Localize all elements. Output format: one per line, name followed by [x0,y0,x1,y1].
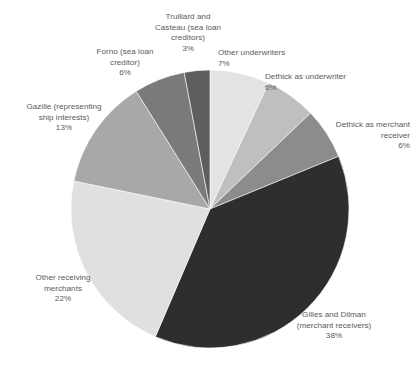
pie-slice-label: Dethick as merchant receiver6% [255,120,410,152]
pie-slice-label: Gilles and Dilman (merchant receivers)38… [258,310,410,342]
pie-slice-label-text: Dethick as underwriter [265,72,346,81]
pie-slice-label-text: Truillard and Casteau (sea loan creditor… [155,12,221,42]
pie-chart-figure: Other underwriters7%Dethick as underwrit… [0,0,415,367]
pie-slice-percent: 6% [255,141,410,152]
pie-slice-label: Gazille (representing ship interests)13% [4,102,124,134]
pie-slice-percent: 7% [218,59,318,70]
pie-slice-percent: 22% [8,294,118,305]
pie-slice-label-text: Other receiving merchants [35,273,90,293]
pie-slice-label: Truillard and Casteau (sea loan creditor… [133,12,243,54]
pie-slice-percent: 13% [4,123,124,134]
pie-slice-percent: 6% [265,83,415,94]
pie-slice-percent: 38% [258,331,410,342]
pie-slice-label: Other receiving merchants22% [8,273,118,305]
pie-slice-percent: 6% [70,68,180,79]
pie-slice-label-text: Dethick as merchant receiver [336,120,410,140]
pie-slice-percent: 3% [133,44,243,55]
pie-slice-label-text: Gilles and Dilman (merchant receivers) [297,310,372,330]
pie-slice-label: Dethick as underwriter6% [265,72,415,93]
pie-slice-label-text: Gazille (representing ship interests) [26,102,101,122]
